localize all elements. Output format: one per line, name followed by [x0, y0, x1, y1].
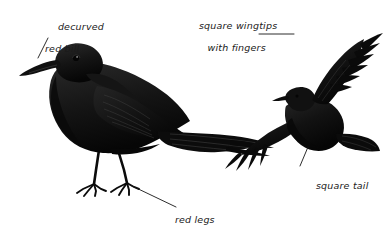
annotation-bill-line2: red bill [45, 43, 104, 54]
annotation-wingtips-line2: with fingers [186, 42, 277, 53]
annotation-legs-line1: red legs [175, 214, 215, 225]
leader-tail-line [300, 147, 308, 166]
illustration-plate: decurved red bill square wingtips with f… [0, 0, 390, 225]
annotation-bill-line1: decurved [58, 21, 104, 32]
annotation-square-wingtips: square wingtips with fingers [186, 9, 277, 75]
flying-bird-eye [296, 95, 299, 98]
annotation-wingtips-line1: square wingtips [199, 20, 277, 31]
annotation-red-legs: red legs [162, 203, 215, 225]
annotation-decurved-red-bill: decurved red bill [45, 10, 104, 76]
perched-bird-legs [94, 150, 127, 184]
annotation-tail-line1: square tail [316, 180, 369, 191]
annotation-square-tail: square tail [303, 169, 369, 202]
